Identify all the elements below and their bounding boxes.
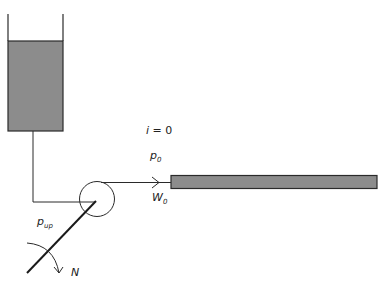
- pressure-out-label: p0: [150, 150, 161, 164]
- diagram-canvas: [0, 0, 382, 286]
- speed-label: N: [71, 267, 79, 278]
- shaft: [27, 201, 96, 273]
- pump: [80, 182, 115, 217]
- flow-out-label: W0: [152, 192, 167, 206]
- index-label: i = 0: [146, 125, 172, 136]
- suction-pipe: [33, 131, 95, 202]
- reservoir-tank: [8, 14, 63, 131]
- channel: [171, 176, 377, 189]
- pressure-up-label: pup: [37, 216, 53, 230]
- tank-liquid: [8, 41, 63, 131]
